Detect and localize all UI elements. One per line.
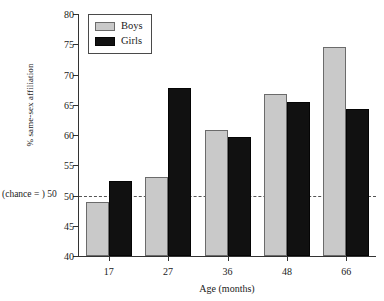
legend-item-girls: Girls xyxy=(95,34,143,49)
y-axis-tick-label: 45 xyxy=(52,220,74,231)
bar-boys-17 xyxy=(86,202,109,256)
y-axis-tick-label: 70 xyxy=(52,69,74,80)
x-axis-tick xyxy=(168,256,169,261)
x-axis-tick-label: 66 xyxy=(324,266,368,277)
bar-girls-66 xyxy=(346,109,369,256)
legend-swatch-boys-icon xyxy=(95,22,115,31)
bar-boys-27 xyxy=(145,177,168,256)
bar-boys-36 xyxy=(205,130,228,256)
x-axis-tick-label: 27 xyxy=(146,266,190,277)
y-axis-title: % same-sex affiliation xyxy=(25,15,35,195)
y-axis-tick-label: 40 xyxy=(52,251,74,262)
bar-boys-48 xyxy=(264,94,287,256)
x-axis-tick xyxy=(346,256,347,261)
legend: Boys Girls xyxy=(88,14,152,54)
bar-girls-17 xyxy=(109,181,132,256)
x-axis-tick xyxy=(228,256,229,261)
y-axis-tick-label: 65 xyxy=(52,99,74,110)
y-axis-tick-label: 80 xyxy=(52,9,74,20)
bar-girls-36 xyxy=(228,137,251,256)
legend-swatch-girls-icon xyxy=(95,37,115,46)
x-axis-title: Age (months) xyxy=(78,283,376,294)
chance-line-label: (chance = ) 50 xyxy=(2,189,57,199)
y-axis-tick-label: 55 xyxy=(52,160,74,171)
x-axis-tick-label: 17 xyxy=(87,266,131,277)
bar-chart: % same-sex affiliation (chance = ) 50 40… xyxy=(0,0,384,301)
bar-girls-27 xyxy=(168,88,191,256)
legend-label-girls: Girls xyxy=(121,36,142,47)
legend-label-boys: Boys xyxy=(121,21,143,32)
bar-boys-66 xyxy=(323,47,346,256)
y-axis-tick-label: 75 xyxy=(52,39,74,50)
x-axis-tick xyxy=(109,256,110,261)
bar-girls-48 xyxy=(287,102,310,256)
y-axis-tick-label: 50 xyxy=(52,190,74,201)
legend-item-boys: Boys xyxy=(95,19,143,34)
x-axis-tick xyxy=(287,256,288,261)
x-axis-tick-label: 36 xyxy=(206,266,250,277)
y-axis-tick-label: 60 xyxy=(52,130,74,141)
x-axis-tick-label: 48 xyxy=(265,266,309,277)
